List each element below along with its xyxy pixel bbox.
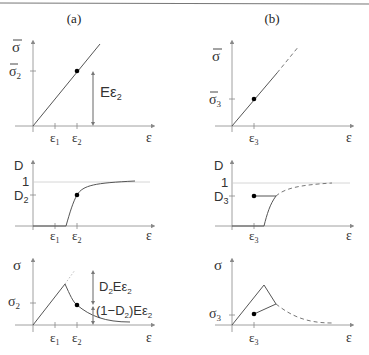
- svg-text:σ3: σ3: [209, 92, 222, 109]
- softening-curve-dashed: [276, 304, 332, 323]
- y-axis-label: σ: [12, 39, 20, 55]
- y-axis-label: σ: [13, 257, 21, 273]
- D3-label: D: [214, 189, 223, 204]
- svg-text:ε1: ε1: [50, 130, 59, 147]
- top-rule: [0, 3, 369, 4]
- svg-text:ε2: ε2: [72, 330, 81, 347]
- svg-text:ε3: ε3: [249, 330, 258, 347]
- state-point: [75, 69, 80, 74]
- state-point: [252, 312, 257, 317]
- svg-text:σ3: σ3: [209, 306, 222, 323]
- damage-curve-dashed: [276, 183, 332, 196]
- svg-text:ε3: ε3: [249, 228, 258, 245]
- svg-text:σ: σ: [212, 48, 220, 64]
- svg-text:ε2: ε2: [72, 228, 81, 245]
- y-axis-label: D: [14, 158, 23, 173]
- x-axis-label: ε: [346, 130, 352, 145]
- plot-b-damage: D 1 D3 ε3 ε: [214, 158, 352, 245]
- svg-text:σ: σ: [12, 39, 20, 55]
- y-axis-label: σ: [212, 48, 220, 64]
- svg-text:Eε2: Eε2: [100, 83, 122, 102]
- one-label: 1: [22, 174, 29, 189]
- damage-curve-solid: [232, 196, 276, 226]
- unload-path: [254, 304, 276, 314]
- panel-b-title: (b): [264, 11, 279, 26]
- state-point: [75, 193, 80, 198]
- E-eps2-label: Eε: [100, 83, 117, 100]
- x-axis-label: ε: [146, 330, 152, 345]
- x-axis-label: ε: [346, 330, 352, 345]
- D2-label: D: [14, 188, 23, 203]
- svg-text:σ2: σ2: [8, 294, 20, 311]
- stress-line: [33, 44, 100, 126]
- state-point: [252, 97, 257, 102]
- loading-line: [33, 284, 65, 325]
- D2E-eps2-label: D: [99, 279, 108, 294]
- plot-a-effective-stress: σ σ2 Eε2 ε1 ε2 ε: [9, 39, 153, 147]
- plot-a-nominal-stress: σ σ2 D2Eε2 (1−D2)Eε2 ε1 ε2 ε: [8, 257, 153, 347]
- svg-text:D3: D3: [214, 189, 228, 206]
- x-axis-label: ε: [346, 228, 352, 243]
- plot-b-effective-stress: σ σ3 ε3 ε: [209, 42, 352, 147]
- plot-b-nominal-stress: σ σ3 ε3 ε: [209, 257, 352, 347]
- svg-text:ε2: ε2: [72, 130, 81, 147]
- softening-line: [264, 285, 276, 304]
- one-minus-D2-label: (1−D: [96, 303, 125, 318]
- damage-curve: [33, 181, 135, 226]
- svg-text:ε3: ε3: [249, 130, 258, 147]
- panel-a-title: (a): [67, 11, 81, 26]
- elastic-extension-dotted: [65, 270, 75, 284]
- y-axis-label: D: [214, 158, 223, 173]
- damage-model-diagram: (a) (b) σ σ2 Eε2 ε1 ε2 ε σ σ3 ε3 ε: [0, 0, 369, 355]
- x-axis-label: ε: [146, 228, 152, 243]
- svg-text:ε1: ε1: [50, 330, 59, 347]
- y-axis-label: σ: [214, 257, 222, 273]
- plot-a-damage: D 1 D2: [14, 158, 153, 230]
- loading-line: [232, 285, 264, 325]
- state-point: [252, 194, 257, 199]
- stress-line-dashed: [277, 46, 299, 73]
- svg-text:σ2: σ2: [9, 64, 21, 81]
- one-label: 1: [221, 175, 228, 190]
- state-point: [75, 303, 80, 308]
- x-axis-label: ε: [146, 130, 152, 145]
- svg-text:(1−D2)Eε2: (1−D2)Eε2: [96, 303, 153, 320]
- svg-text:D2Eε2: D2Eε2: [99, 279, 132, 296]
- svg-text:ε1: ε1: [50, 228, 59, 245]
- svg-text:D2: D2: [14, 188, 28, 205]
